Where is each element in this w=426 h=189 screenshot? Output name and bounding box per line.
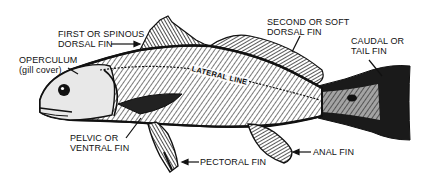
label-caudal-fin: CAUDAL OR TAIL FIN [351,36,404,56]
pelvic-fin [148,122,178,172]
label-second-dorsal-fin: SECOND OR SOFT DORSAL FIN [267,17,349,37]
label-pelvic-fin: PELVIC OR VENTRAL FIN [70,133,129,153]
label-anal-fin: ANAL FIN [313,147,354,157]
label-first-dorsal-fin: FIRST OR SPINOUS DORSAL FIN [58,29,144,49]
label-operculum: OPERCULUM (gill cover) [19,55,77,75]
eye [58,84,70,96]
label-pectoral-fin: PECTORAL FIN [200,157,266,167]
fish-anatomy-diagram: FIRST OR SPINOUS DORSAL FIN OPERCULUM (g… [0,0,426,189]
